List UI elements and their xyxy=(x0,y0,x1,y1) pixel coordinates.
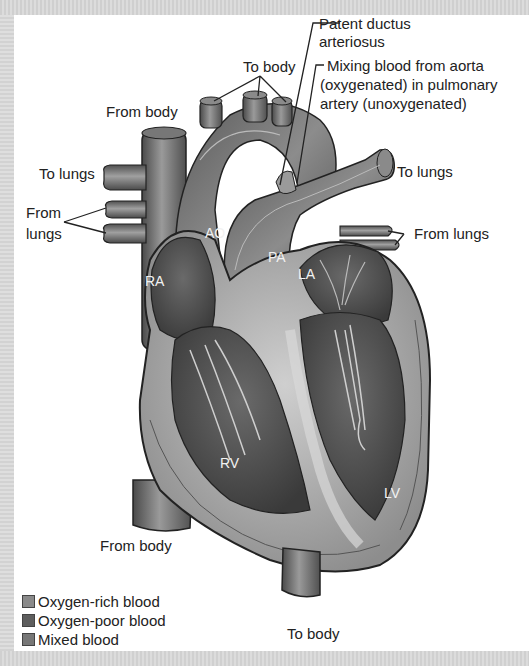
pulmonary-vein-left-lower xyxy=(104,224,146,243)
legend: Oxygen-rich blood Oxygen-poor blood Mixe… xyxy=(22,592,166,649)
chamber-label-right-atrium: RA xyxy=(145,273,164,289)
label-from-body-top: From body xyxy=(106,103,178,121)
label-from-body-bottom: From body xyxy=(100,537,172,555)
label-from-lungs-left-line2: lungs xyxy=(26,225,62,243)
label-mixing-line1: Mixing blood from aorta xyxy=(327,57,484,75)
descending-aorta xyxy=(282,548,320,597)
chamber-label-left-ventricle: LV xyxy=(384,485,400,501)
label-to-lungs-right: To lungs xyxy=(397,163,453,181)
swatch-oxygen-rich xyxy=(22,595,35,608)
label-to-body-bottom: To body xyxy=(287,625,340,643)
legend-label: Mixed blood xyxy=(38,631,119,648)
swatch-oxygen-poor xyxy=(22,614,35,627)
chamber-label-right-ventricle: RV xyxy=(220,455,239,471)
legend-label: Oxygen-rich blood xyxy=(38,593,160,610)
swatch-mixed xyxy=(22,633,35,646)
label-mixing-line3: artery (unoxygenated) xyxy=(320,95,467,113)
label-patent-ductus-line2: arteriosus xyxy=(319,33,385,51)
legend-item-oxygen-rich: Oxygen-rich blood xyxy=(22,592,166,611)
label-mixing-line2: (oxygenated) in pulmonary xyxy=(320,76,498,94)
label-from-lungs-right: From lungs xyxy=(414,225,489,243)
legend-item-oxygen-poor: Oxygen-poor blood xyxy=(22,611,166,630)
pulmonary-vein-left-upper xyxy=(106,201,146,218)
pulmonary-vein-right-upper xyxy=(340,226,392,236)
chamber-label-aorta: AO xyxy=(205,225,225,241)
ductus-arteriosus xyxy=(276,171,296,193)
label-to-lungs-left: To lungs xyxy=(39,165,95,183)
label-to-body-top: To body xyxy=(243,58,296,76)
legend-label: Oxygen-poor blood xyxy=(38,612,166,629)
pulmonary-artery-left-branch xyxy=(104,165,146,190)
chamber-label-left-atrium: LA xyxy=(298,266,315,282)
chamber-label-pulmonary-artery: PA xyxy=(268,249,286,265)
label-from-lungs-left-line1: From xyxy=(26,204,61,222)
legend-item-mixed: Mixed blood xyxy=(22,630,166,649)
label-patent-ductus-line1: Patent ductus xyxy=(319,15,411,33)
